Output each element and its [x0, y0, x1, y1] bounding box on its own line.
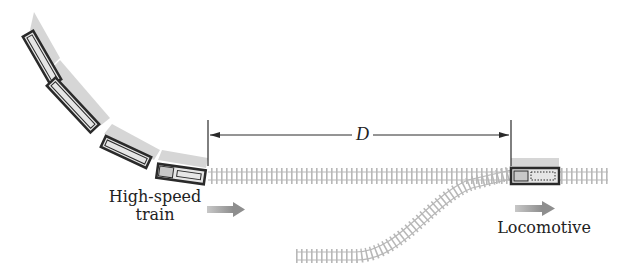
train-label-line1: High-speed	[100, 188, 210, 206]
distance-label: D	[352, 124, 373, 145]
train-label-line2: train	[100, 206, 210, 224]
train-velocity-arrow	[207, 202, 245, 217]
locomotive-label: Locomotive	[484, 219, 604, 237]
locomotive	[511, 158, 559, 184]
locomotive-velocity-arrow	[515, 201, 555, 216]
high-speed-train	[23, 12, 208, 184]
high-speed-train-label: High-speed train	[100, 188, 210, 224]
